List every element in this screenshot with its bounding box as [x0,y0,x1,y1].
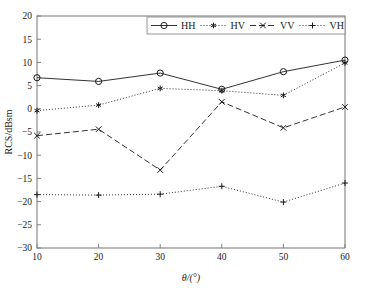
legend-label-HV: HV [231,20,246,31]
x-tick-label: 60 [340,252,350,262]
y-tick-label: 15 [23,35,33,45]
legend-label-HH: HH [181,20,195,31]
rcs-angle-chart: 20151050−5−10−15−20−25−30 102030405060 θ… [0,0,368,292]
y-tick-label: −15 [17,174,32,184]
legend-label-VV: VV [280,20,295,31]
x-tick-label: 10 [32,252,42,262]
y-tick-label: −5 [22,127,32,137]
y-tick-label: 20 [23,11,33,21]
x-tick-label: 40 [217,252,227,262]
legend-label-VH: VH [330,20,344,31]
y-tick-label: −30 [17,243,32,253]
chart-legend[interactable]: HHHVVVVH [147,17,345,34]
y-tick-label: −10 [17,151,32,161]
y-axis-title: RCS/dBsm [3,109,14,154]
y-tick-label: 5 [27,81,32,91]
x-tick-label: 20 [94,252,104,262]
x-tick-label: 30 [155,252,165,262]
x-tick-label: 50 [279,252,289,262]
y-tick-label: −20 [17,197,32,207]
chart-canvas: 20151050−5−10−15−20−25−30 102030405060 θ… [0,0,368,292]
y-tick-label: −25 [17,220,32,230]
x-axis-title: θ/(°) [182,272,201,284]
y-tick-label: 10 [23,58,33,68]
y-tick-label: 0 [27,104,32,114]
